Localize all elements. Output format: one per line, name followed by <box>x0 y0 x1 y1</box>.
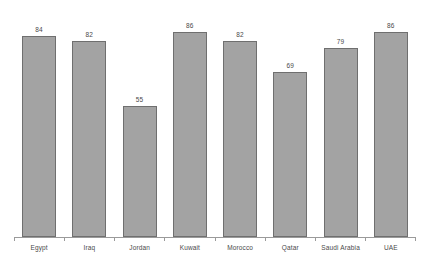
bar-chart: 84 82 55 86 82 69 79 86 <box>0 0 430 264</box>
bar-group-morocco[interactable]: 82 <box>215 10 265 237</box>
plot-area: 84 82 55 86 82 69 79 86 <box>14 10 416 237</box>
axis-label-saudi-arabia: Saudi Arabia <box>316 244 366 251</box>
bar-value-label: 86 <box>387 23 395 30</box>
x-axis-category-labels: Egypt Iraq Jordan Kuwait Morocco Qatar S… <box>14 244 416 251</box>
bar-saudi-arabia[interactable] <box>324 48 358 237</box>
bar-group-jordan[interactable]: 55 <box>115 10 165 237</box>
axis-label-kuwait: Kuwait <box>165 244 215 251</box>
axis-label-morocco: Morocco <box>215 244 265 251</box>
bar-egypt[interactable] <box>22 36 56 237</box>
axis-label-uae: UAE <box>366 244 416 251</box>
bar-value-label: 82 <box>236 32 244 39</box>
bar-group-kuwait[interactable]: 86 <box>165 10 215 237</box>
bar-value-label: 84 <box>35 27 43 34</box>
bar-value-label: 82 <box>86 32 94 39</box>
bar-group-uae[interactable]: 86 <box>366 10 416 237</box>
bar-value-label: 86 <box>186 23 194 30</box>
bar-group-qatar[interactable]: 69 <box>265 10 315 237</box>
bar-group-egypt[interactable]: 84 <box>14 10 64 237</box>
bar-morocco[interactable] <box>223 41 257 237</box>
axis-label-jordan: Jordan <box>115 244 165 251</box>
bar-qatar[interactable] <box>273 72 307 237</box>
axis-label-qatar: Qatar <box>265 244 315 251</box>
x-axis-line <box>14 237 416 238</box>
bar-uae[interactable] <box>374 32 408 237</box>
bar-jordan[interactable] <box>123 106 157 237</box>
bar-value-label: 69 <box>287 63 295 70</box>
bar-group-iraq[interactable]: 82 <box>64 10 114 237</box>
bar-value-label: 79 <box>337 39 345 46</box>
bar-kuwait[interactable] <box>173 32 207 237</box>
axis-label-egypt: Egypt <box>14 244 64 251</box>
bar-group-saudi-arabia[interactable]: 79 <box>316 10 366 237</box>
bar-iraq[interactable] <box>72 41 106 237</box>
axis-label-iraq: Iraq <box>64 244 114 251</box>
bar-value-label: 55 <box>136 97 144 104</box>
